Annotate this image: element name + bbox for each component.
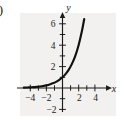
x-tick-label--4: −4	[25, 93, 35, 103]
y-axis-label: y	[65, 2, 71, 13]
figure-container: a) −4 −2 2 4 x	[0, 0, 124, 127]
y-tick-label-6: 6	[51, 19, 56, 29]
x-tick-label-2: 2	[77, 93, 82, 103]
exponential-curve	[24, 19, 84, 88]
y-tick-label-4: 4	[51, 41, 56, 51]
x-tick-label--2: −2	[41, 93, 51, 103]
x-axis-label: x	[111, 83, 117, 94]
y-tick-label--2: −2	[46, 105, 56, 115]
x-tick-label-4: 4	[93, 93, 98, 103]
y-axis-arrowhead	[60, 12, 65, 18]
x-axis-group: −4 −2 2 4 x	[17, 83, 117, 104]
y-tick-label-2: 2	[51, 62, 56, 72]
coordinate-plot: −4 −2 2 4 x 6 4 2 −2 y	[0, 0, 124, 127]
